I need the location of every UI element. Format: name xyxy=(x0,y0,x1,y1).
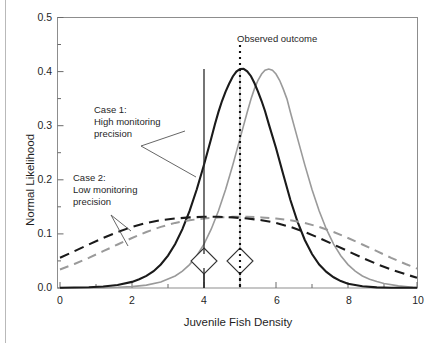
y-axis-minor-ticks xyxy=(58,45,62,261)
plot-svg xyxy=(0,0,441,343)
plot-frame xyxy=(58,18,418,289)
case-1-leader-lines xyxy=(141,131,196,177)
figure-container: Normal Likelihood 0.5 0.4 0.3 0.2 0.1 0.… xyxy=(0,0,441,343)
